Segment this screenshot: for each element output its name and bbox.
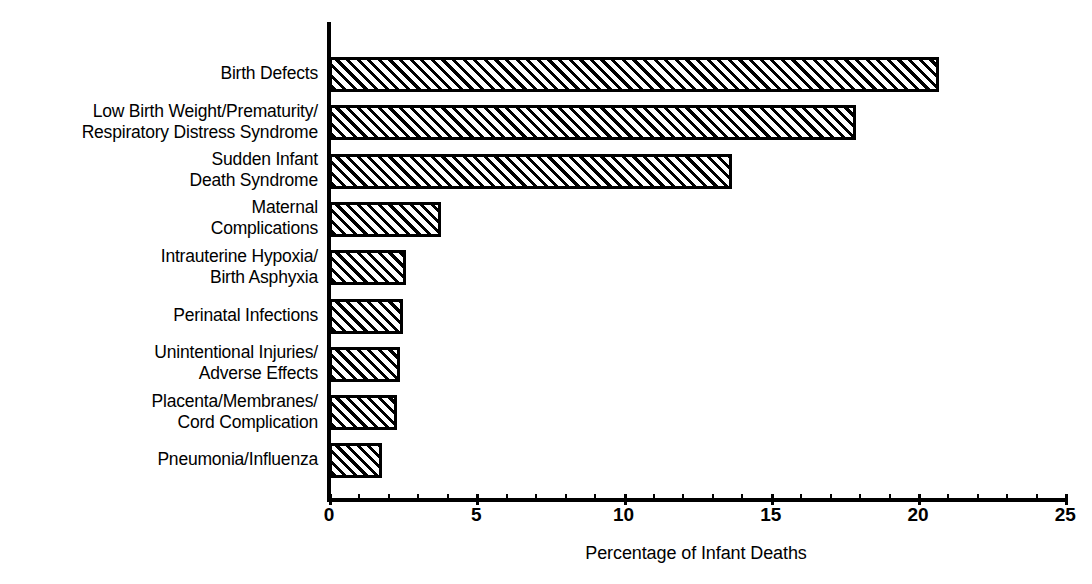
x-axis-title: Percentage of Infant Deaths — [396, 543, 996, 564]
x-axis-minor-tick — [447, 494, 449, 500]
bar — [329, 57, 939, 92]
x-axis-minor-tick — [653, 494, 655, 500]
x-axis-minor-tick — [712, 494, 714, 500]
bar — [329, 250, 406, 285]
bar — [329, 347, 400, 382]
plot-area: 0510152025 — [0, 0, 1092, 584]
x-axis-tick-label: 10 — [604, 504, 644, 526]
x-axis-minor-tick — [947, 494, 949, 500]
x-axis-minor-tick — [1006, 494, 1008, 500]
x-axis-minor-tick — [594, 494, 596, 500]
bar — [329, 299, 403, 334]
x-axis-line — [327, 498, 1067, 502]
x-axis-minor-tick — [358, 494, 360, 500]
bar-chart: Birth DefectsLow Birth Weight/Prematurit… — [0, 0, 1092, 584]
x-axis-minor-tick — [506, 494, 508, 500]
bar — [329, 105, 856, 140]
x-axis-minor-tick — [800, 494, 802, 500]
bar — [329, 154, 732, 189]
x-axis-minor-tick — [741, 494, 743, 500]
x-axis-minor-tick — [830, 494, 832, 500]
bar — [329, 395, 397, 430]
x-axis-minor-tick — [977, 494, 979, 500]
x-axis-minor-tick — [682, 494, 684, 500]
bar — [329, 443, 382, 478]
x-axis-minor-tick — [388, 494, 390, 500]
bar — [329, 202, 441, 237]
x-axis-minor-tick — [535, 494, 537, 500]
x-axis-tick-label: 5 — [456, 504, 496, 526]
x-axis-tick-label: 25 — [1045, 504, 1085, 526]
x-axis-minor-tick — [565, 494, 567, 500]
x-axis-tick-label: 0 — [309, 504, 349, 526]
x-axis-minor-tick — [859, 494, 861, 500]
x-axis-minor-tick — [417, 494, 419, 500]
x-axis-tick-label: 15 — [751, 504, 791, 526]
x-axis-minor-tick — [889, 494, 891, 500]
x-axis-minor-tick — [1036, 494, 1038, 500]
x-axis-tick-label: 20 — [898, 504, 938, 526]
